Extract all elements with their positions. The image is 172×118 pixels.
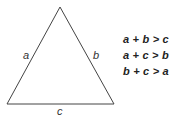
side-label-c: c — [57, 106, 63, 117]
inequality-1: a + b > c — [123, 34, 169, 45]
inequality-3: b + c > a — [123, 66, 169, 77]
inequality-2: a + c > b — [123, 50, 169, 61]
side-label-a: a — [23, 50, 29, 61]
side-label-b: b — [93, 50, 99, 61]
